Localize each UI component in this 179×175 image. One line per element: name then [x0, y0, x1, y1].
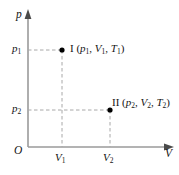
x-tick-label-v2: V2: [103, 152, 113, 164]
v-axis-label: V: [165, 148, 172, 160]
pv-diagram-figure: p V O p1 p2 V1 V2 I (p1, V1, T1) II (p2,…: [0, 0, 179, 175]
state-2-annotation: II (p2, V2, T2): [112, 97, 170, 109]
origin-label: O: [14, 145, 22, 157]
state-1-paren-close: ): [121, 42, 125, 54]
x-tick-label-v1: V1: [55, 152, 65, 164]
y-tick-label-p1: p1: [12, 43, 21, 55]
state-1-v: V: [95, 42, 102, 54]
state-1-annotation: I (p1, V1, T1): [70, 43, 124, 55]
p-axis-label: p: [16, 9, 22, 21]
data-point-state-1: [59, 47, 64, 52]
y-tick-label-p2: p2: [12, 103, 21, 115]
p-axis-arrowhead: [25, 9, 32, 19]
pv-diagram-canvas: [0, 0, 179, 175]
state-2-paren-close: ): [166, 96, 170, 108]
